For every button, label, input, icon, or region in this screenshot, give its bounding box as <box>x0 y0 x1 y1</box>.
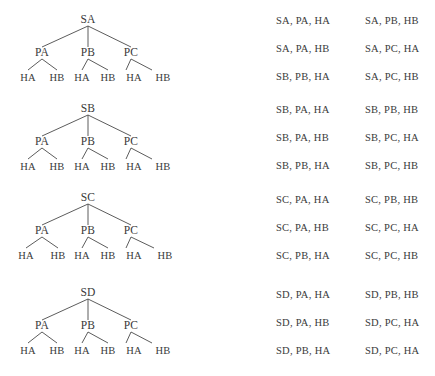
tree-node-mid-1: PB <box>81 136 95 147</box>
tree-node-root: SB <box>81 103 95 114</box>
combination-right: SC, PB, HB <box>365 193 418 206</box>
tree-node-mid-2: PC <box>124 320 138 331</box>
tree-node-leaf-4: HA <box>126 250 142 261</box>
combination-left: SB, PA, HB <box>276 131 329 144</box>
tree-node-mid-1: PB <box>81 320 95 331</box>
tree-node-mid-0: PA <box>35 47 49 58</box>
tree-node-leaf-5: HB <box>156 161 171 172</box>
tree-node-leaf-0: HA <box>20 345 36 356</box>
tree-block-sd: SD PA PB PC HA HB HA HB HA HB <box>0 285 250 375</box>
tree-node-leaf-4: HA <box>126 345 142 356</box>
combination-right: SC, PC, HA <box>365 221 419 234</box>
combination-right: SA, PC, HB <box>365 70 419 83</box>
tree-node-root: SD <box>80 287 95 298</box>
combination-right: SC, PC, HB <box>365 249 418 262</box>
tree-node-root: SC <box>81 192 95 203</box>
combination-row: SC, PB, HA SC, PC, HB <box>262 249 435 262</box>
combination-row: SB, PA, HA SB, PB, HB <box>262 103 435 116</box>
combination-left: SB, PB, HA <box>276 70 330 83</box>
combination-row: SA, PA, HA SA, PB, HB <box>262 14 435 27</box>
tree-node-leaf-3: HB <box>101 161 116 172</box>
tree-block-sb: SB PA PB PC HA HB HA HB HA HB <box>0 101 250 191</box>
tree-node-mid-2: PC <box>124 136 138 147</box>
tree-node-leaf-2: HA <box>74 161 90 172</box>
combination-list: SA, PA, HA SA, PB, HB SA, PA, HB SA, PC,… <box>262 0 435 376</box>
combination-row: SB, PA, HB SB, PC, HA <box>262 131 435 144</box>
tree-node-mid-1: PB <box>81 47 95 58</box>
tree-node-mid-0: PA <box>35 225 49 236</box>
combination-row: SD, PA, HA SD, PB, HB <box>262 288 435 301</box>
tree-node-leaf-1: HB <box>50 161 65 172</box>
combination-right: SA, PC, HA <box>365 42 419 55</box>
tree-node-leaf-3: HB <box>101 72 116 83</box>
tree-node-root: SA <box>80 14 95 25</box>
combination-left: SC, PA, HA <box>276 193 329 206</box>
combination-right: SD, PC, HA <box>365 344 419 357</box>
tree-node-leaf-2: HA <box>74 345 90 356</box>
tree-node-mid-1: PB <box>81 225 95 236</box>
tree-node-mid-2: PC <box>124 47 138 58</box>
combination-left: SD, PA, HB <box>276 316 329 329</box>
tree-node-leaf-0: HA <box>20 72 36 83</box>
tree-node-mid-2: PC <box>124 225 138 236</box>
tree-node-leaf-5: HB <box>158 250 173 261</box>
tree-node-leaf-3: HB <box>101 345 116 356</box>
combination-row: SD, PA, HB SD, PC, HA <box>262 316 435 329</box>
tree-node-leaf-2: HA <box>74 72 90 83</box>
tree-node-leaf-3: HB <box>101 250 116 261</box>
combination-row: SD, PB, HA SD, PC, HA <box>262 344 435 357</box>
combination-row: SB, PB, HA SA, PC, HB <box>262 70 435 83</box>
combination-left: SC, PA, HB <box>276 221 329 234</box>
combination-left: SA, PA, HB <box>276 42 329 55</box>
combination-right: SD, PB, HB <box>365 288 419 301</box>
combination-right: SB, PB, HB <box>365 103 418 116</box>
combination-left: SD, PA, HA <box>276 288 330 301</box>
combination-right: SB, PC, HB <box>365 159 418 172</box>
tree-node-leaf-0: HA <box>18 250 34 261</box>
combination-right: SA, PB, HB <box>365 14 419 27</box>
tree-node-leaf-2: HA <box>74 250 90 261</box>
tree-node-leaf-4: HA <box>126 72 142 83</box>
combination-left: SB, PA, HA <box>276 103 329 116</box>
combination-row: SC, PA, HB SC, PC, HA <box>262 221 435 234</box>
tree-node-mid-0: PA <box>35 320 49 331</box>
tree-node-leaf-1: HB <box>50 345 65 356</box>
combination-row: SB, PB, HA SB, PC, HB <box>262 159 435 172</box>
tree-node-leaf-5: HB <box>156 345 171 356</box>
combination-row: SA, PA, HB SA, PC, HA <box>262 42 435 55</box>
tree-node-leaf-5: HB <box>156 72 171 83</box>
combination-left: SB, PB, HA <box>276 159 330 172</box>
figure-canvas: SA PA PB PC HA HB HA HB HA HB SB PA P <box>0 0 435 376</box>
combination-left: SD, PB, HA <box>276 344 330 357</box>
tree-node-leaf-0: HA <box>20 161 36 172</box>
combination-left: SA, PA, HA <box>276 14 330 27</box>
tree-node-leaf-1: HB <box>50 72 65 83</box>
tree-node-mid-0: PA <box>35 136 49 147</box>
tree-node-leaf-1: HB <box>51 250 66 261</box>
tree-block-sa: SA PA PB PC HA HB HA HB HA HB <box>0 12 250 102</box>
tree-block-sc: SC PA PB PC HA HB HA HB HA HB <box>0 190 250 280</box>
combination-right: SB, PC, HA <box>365 131 419 144</box>
combination-left: SC, PB, HA <box>276 249 330 262</box>
combination-row: SC, PA, HA SC, PB, HB <box>262 193 435 206</box>
combination-right: SD, PC, HA <box>365 316 419 329</box>
tree-node-leaf-4: HA <box>126 161 142 172</box>
